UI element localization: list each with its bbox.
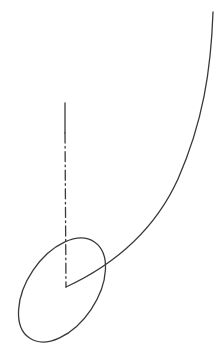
line-drawing-svg (0, 0, 222, 358)
figure-canvas (0, 0, 222, 358)
canvas-background (0, 0, 222, 358)
